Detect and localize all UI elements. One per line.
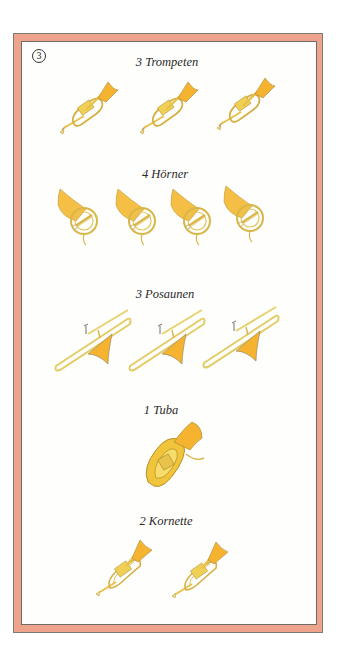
horn-icon [193, 215, 194, 216]
cornet-icon [124, 572, 125, 573]
label-horns: 4 Hörner [142, 167, 188, 182]
frame-inner-panel [21, 41, 317, 625]
tuba-icon [172, 460, 173, 461]
picture-frame [13, 33, 323, 633]
trumpet-icon [245, 108, 246, 109]
page-number-badge: 3 [32, 49, 46, 63]
label-cornets: 2 Kornette [139, 514, 192, 529]
label-trombones: 3 Posaunen [136, 287, 195, 302]
trombone-icon [246, 337, 247, 338]
trombone-icon [172, 340, 173, 341]
label-trumpets: 3 Trompeten [136, 55, 198, 70]
horn-icon [138, 215, 139, 216]
cornet-icon [200, 574, 201, 575]
label-tuba: 1 Tuba [144, 403, 178, 418]
trombone-icon [98, 340, 99, 341]
horn-icon [246, 212, 247, 213]
trumpet-icon [88, 112, 89, 113]
trumpet-icon [168, 112, 169, 113]
horn-icon [80, 215, 81, 216]
